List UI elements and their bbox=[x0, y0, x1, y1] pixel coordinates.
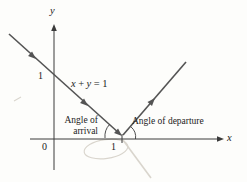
angle-of-departure-annotation: Angle of departure bbox=[132, 116, 204, 127]
angle-of-arrival-line2: arrival bbox=[40, 126, 98, 137]
diagram-svg bbox=[0, 0, 247, 182]
y-unit-label: 1 bbox=[38, 70, 43, 81]
y-axis-label: y bbox=[50, 5, 55, 16]
equation-one: 1 bbox=[102, 78, 108, 89]
x-unit-label: 1 bbox=[111, 141, 116, 152]
equation-plus: + bbox=[78, 78, 84, 89]
x-axis-label: x bbox=[227, 132, 232, 143]
equation-label: x+y=1 bbox=[71, 78, 110, 89]
equation-var-y: y bbox=[87, 78, 92, 89]
line-extension-below-axis bbox=[123, 140, 151, 178]
equation-equals: = bbox=[94, 78, 100, 89]
x-axis-arrowhead-icon bbox=[217, 136, 224, 142]
angle-of-arrival-annotation: Angle of arrival bbox=[40, 115, 98, 136]
angle-of-arrival-line1: Angle of bbox=[40, 115, 98, 126]
arrival-angle-arc bbox=[105, 125, 110, 139]
equation-var-x: x bbox=[71, 78, 76, 89]
departure-angle-arc bbox=[131, 127, 136, 139]
stray-pencil-mark bbox=[14, 97, 21, 101]
y-axis-arrowhead-icon bbox=[51, 24, 57, 31]
figure-canvas: y x 0 1 1 x+y=1 Angle of arrival Angle o… bbox=[0, 0, 247, 182]
origin-label: 0 bbox=[42, 141, 47, 152]
